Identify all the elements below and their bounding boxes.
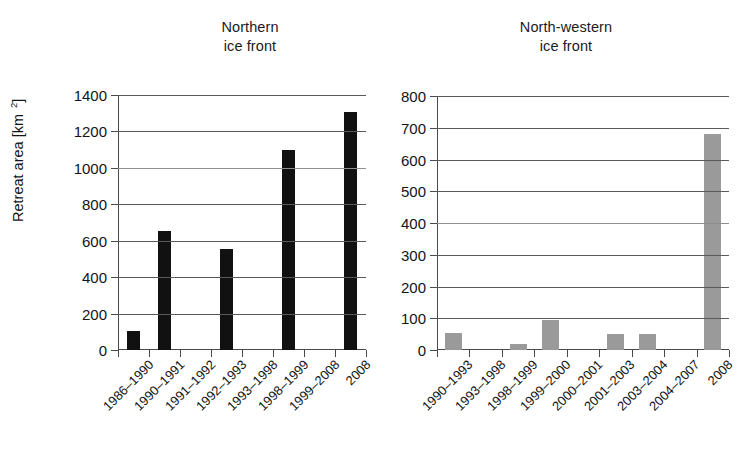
chart-title-north-western: North-western ice front bbox=[426, 18, 706, 56]
gridline bbox=[118, 277, 366, 278]
y-axis-tick-label: 600 bbox=[401, 151, 426, 168]
y-axis-tick-label: 0 bbox=[99, 342, 107, 359]
bar bbox=[542, 320, 559, 350]
y-axis-tick-label: 800 bbox=[401, 88, 426, 105]
gridline bbox=[118, 131, 366, 132]
y-axis-tick bbox=[430, 96, 437, 97]
bar bbox=[445, 333, 462, 350]
x-axis-tick bbox=[469, 350, 470, 357]
gridline bbox=[118, 314, 366, 315]
gridline bbox=[437, 287, 729, 288]
y-axis-tick-label: 300 bbox=[401, 246, 426, 263]
y-axis-tick bbox=[430, 191, 437, 192]
bar bbox=[220, 249, 233, 350]
y-axis-tick-label: 500 bbox=[401, 183, 426, 200]
gridline bbox=[437, 191, 729, 192]
y-axis-tick bbox=[111, 314, 118, 315]
chart-title-northern-line2: ice front bbox=[120, 37, 380, 56]
gridline bbox=[118, 168, 366, 169]
x-axis-tick bbox=[664, 350, 665, 357]
y-axis-tick-label: 700 bbox=[401, 119, 426, 136]
x-axis-tick bbox=[180, 350, 181, 357]
bar-series-northern bbox=[118, 95, 366, 350]
y-axis-tick-label: 1000 bbox=[74, 159, 107, 176]
y-axis-tick bbox=[111, 204, 118, 205]
y-axis-tick bbox=[430, 318, 437, 319]
plot-area-northern: 0200400600800100012001400 bbox=[118, 95, 366, 350]
plot-area-north-western: 0100200300400500600700800 bbox=[437, 96, 729, 350]
y-axis-tick bbox=[430, 350, 437, 351]
y-axis-tick-label: 400 bbox=[82, 269, 107, 286]
y-axis-tick-label: 1400 bbox=[74, 87, 107, 104]
gridline bbox=[437, 223, 729, 224]
y-axis-tick-label: 100 bbox=[401, 310, 426, 327]
chart-panel-north-western: North-western ice front 0100200300400500… bbox=[386, 0, 744, 476]
x-axis-tick bbox=[149, 350, 150, 357]
x-axis-tick bbox=[273, 350, 274, 357]
y-axis-tick-label: 400 bbox=[401, 215, 426, 232]
chart-title-north-western-line2: ice front bbox=[426, 37, 706, 56]
x-axis-tick bbox=[632, 350, 633, 357]
x-axis-tick bbox=[697, 350, 698, 357]
bar bbox=[510, 344, 527, 350]
gridline bbox=[437, 128, 729, 129]
bar bbox=[639, 334, 656, 350]
chart-panel-northern: Northern ice front 020040060080010001200… bbox=[0, 0, 390, 476]
bar bbox=[127, 331, 140, 350]
bar bbox=[158, 231, 171, 350]
x-axis-tick bbox=[335, 350, 336, 357]
x-axis-tick bbox=[242, 350, 243, 357]
y-axis-tick bbox=[430, 160, 437, 161]
retreat-area-figure: Retreat area [km 2] Northern ice front 0… bbox=[0, 0, 744, 476]
y-axis-tick bbox=[111, 350, 118, 351]
y-axis-tick bbox=[111, 241, 118, 242]
y-axis-tick-label: 800 bbox=[82, 196, 107, 213]
x-axis-tick-label: 2008 bbox=[342, 357, 373, 388]
gridline bbox=[437, 318, 729, 319]
x-axis-tick bbox=[534, 350, 535, 357]
x-axis-tick bbox=[366, 350, 367, 357]
y-axis-tick-label: 0 bbox=[418, 342, 426, 359]
y-axis-tick-label: 600 bbox=[82, 232, 107, 249]
x-axis-tick bbox=[502, 350, 503, 357]
y-axis-tick bbox=[111, 277, 118, 278]
x-axis-tick bbox=[118, 350, 119, 357]
gridline bbox=[118, 241, 366, 242]
chart-title-north-western-line1: North-western bbox=[426, 18, 706, 37]
y-axis-tick-label: 200 bbox=[82, 305, 107, 322]
y-axis-tick bbox=[111, 168, 118, 169]
x-axis-tick bbox=[437, 350, 438, 357]
x-axis-tick bbox=[304, 350, 305, 357]
gridline bbox=[437, 160, 729, 161]
gridline bbox=[437, 255, 729, 256]
chart-title-northern-line1: Northern bbox=[120, 18, 380, 37]
y-axis-tick bbox=[430, 223, 437, 224]
y-axis-tick bbox=[111, 95, 118, 96]
y-axis-tick bbox=[430, 287, 437, 288]
bar bbox=[282, 150, 295, 350]
y-axis-tick bbox=[430, 255, 437, 256]
x-axis-tick bbox=[567, 350, 568, 357]
chart-title-northern: Northern ice front bbox=[120, 18, 380, 56]
y-axis-tick-label: 1200 bbox=[74, 123, 107, 140]
gridline bbox=[118, 95, 366, 96]
x-axis-tick-label: 2008 bbox=[704, 357, 735, 388]
x-axis-tick bbox=[599, 350, 600, 357]
gridline bbox=[437, 96, 729, 97]
y-axis-tick bbox=[430, 128, 437, 129]
x-axis-tick bbox=[211, 350, 212, 357]
x-axis-tick bbox=[729, 350, 730, 357]
y-axis-tick-label: 200 bbox=[401, 278, 426, 295]
bar bbox=[607, 334, 624, 350]
y-axis-tick bbox=[111, 131, 118, 132]
gridline bbox=[118, 204, 366, 205]
